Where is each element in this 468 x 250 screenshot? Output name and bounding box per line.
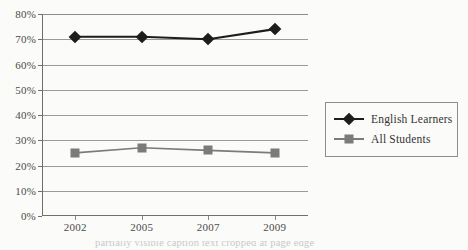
- y-axis-label: 80%: [15, 9, 36, 20]
- cropped-caption-strip: partially visible caption text cropped a…: [0, 241, 468, 250]
- y-axis-label: 60%: [15, 59, 36, 70]
- legend-entry-all-students: All Students: [326, 129, 457, 149]
- legend-label: All Students: [371, 133, 431, 145]
- legend-label: English Learners: [371, 113, 452, 125]
- x-axis-label: 2005: [130, 222, 153, 233]
- data-point-marker: [204, 146, 213, 155]
- x-tick-mark: [142, 216, 143, 220]
- x-axis-label: 2002: [64, 222, 87, 233]
- data-point-marker: [71, 148, 80, 157]
- caption-text: partially visible caption text cropped a…: [95, 241, 314, 248]
- y-axis-label: 70%: [15, 34, 36, 45]
- y-axis-label: 20%: [15, 160, 36, 171]
- x-axis-tick-labels: 2002200520072009: [42, 222, 308, 236]
- x-axis-label: 2007: [197, 222, 220, 233]
- data-point-marker: [137, 143, 146, 152]
- y-axis-label: 40%: [15, 110, 36, 121]
- y-axis-label: 0%: [21, 211, 36, 222]
- x-tick-mark: [275, 216, 276, 220]
- diamond-marker-icon: [334, 113, 364, 125]
- chart-legend: English Learners All Students: [325, 102, 458, 157]
- y-axis-label: 50%: [15, 84, 36, 95]
- y-axis-label: 10%: [15, 185, 36, 196]
- data-series-layer: [42, 14, 308, 216]
- y-axis-tick-labels: 80%70%60%50%40%30%20%10%0%: [0, 14, 36, 216]
- chart-screenshot: 80%70%60%50%40%30%20%10%0% 2002200520072…: [0, 0, 468, 250]
- legend-entry-english-learners: English Learners: [326, 109, 457, 129]
- series-line-all-students: [42, 14, 308, 216]
- square-marker-icon: [334, 133, 364, 145]
- x-axis-label: 2009: [263, 222, 286, 233]
- x-tick-mark: [208, 216, 209, 220]
- x-tick-mark: [75, 216, 76, 220]
- plot-area: [42, 14, 308, 216]
- y-axis-label: 30%: [15, 135, 36, 146]
- data-point-marker: [270, 148, 279, 157]
- y-tick-mark: [38, 216, 42, 217]
